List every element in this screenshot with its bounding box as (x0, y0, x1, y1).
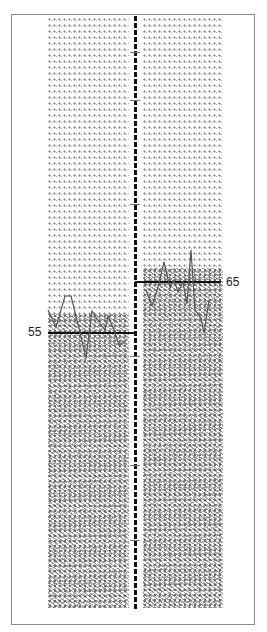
left-dense-region (48, 314, 129, 608)
divider-tick (130, 356, 140, 357)
divider-tick (130, 204, 140, 205)
left-panel (48, 18, 129, 608)
left-threshold-line (48, 332, 136, 334)
left-threshold-label: 55 (28, 325, 41, 339)
dashed-divider (134, 16, 137, 610)
divider-tick (130, 100, 140, 101)
divider-tick (130, 52, 140, 53)
right-threshold-line (135, 281, 221, 283)
divider-tick (130, 465, 140, 466)
divider-tick (130, 540, 140, 541)
right-dense-region (143, 268, 223, 608)
right-threshold-label: 65 (226, 275, 239, 289)
right-panel (143, 18, 223, 608)
